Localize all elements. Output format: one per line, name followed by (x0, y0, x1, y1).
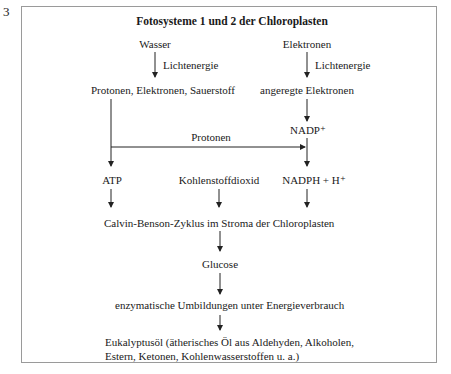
node-nadp: NADP⁺ (290, 124, 326, 137)
diagram-title: Fotosysteme 1 und 2 der Chloroplasten (136, 15, 328, 28)
node-glucose: Glucose (202, 258, 238, 271)
node-protonen-elektronen-sauerstoff: Protonen, Elektronen, Sauerstoff (91, 84, 235, 97)
node-nadph: NADPH + H⁺ (282, 174, 346, 187)
arrows-layer (0, 0, 451, 374)
node-calvin-zyklus: Calvin-Benson-Zyklus im Stroma der Chlor… (104, 217, 334, 230)
node-wasser: Wasser (139, 38, 171, 51)
label-lichtenergie-left: Lichtenergie (163, 59, 218, 72)
node-enzymatische-umbildungen: enzymatische Umbildungen unter Energieve… (115, 299, 344, 312)
node-angeregte-elektronen: angeregte Elektronen (260, 84, 354, 97)
node-elektronen: Elektronen (283, 38, 331, 51)
node-eukalyptusoel-line2: Estern, Ketonen, Kohlenwasserstoffen u. … (105, 350, 299, 363)
node-eukalyptusoel-line1: Eukalyptusöl (ätherisches Öl aus Aldehyd… (105, 336, 354, 349)
label-lichtenergie-right: Lichtenergie (315, 59, 370, 72)
node-kohlenstoffdioxid: Kohlenstoffdioxid (179, 174, 259, 187)
node-atp: ATP (102, 174, 122, 187)
label-protonen: Protonen (191, 131, 231, 144)
